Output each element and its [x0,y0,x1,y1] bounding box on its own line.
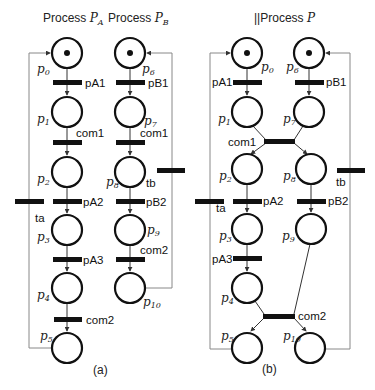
label-p1-b: p1 [218,112,231,127]
transition-com1-a [53,140,82,145]
label-p10-a: p10 [143,295,161,310]
label-p5-a: p5 [40,329,53,344]
label-com2-a: com2 [86,314,114,326]
title-process-pb: Process PB [108,11,169,27]
transition-pB1-a [116,80,145,85]
place-p9-a [115,215,145,245]
label-com1-b: com1 [228,136,256,148]
label-p6-a: p6 [142,62,155,77]
token-p0-a [64,50,70,56]
label-p5-b: p5 [221,329,234,344]
caption-a: (a) [93,363,108,377]
label-p2-a: p2 [37,172,50,187]
label-pB1-a: pB1 [148,77,168,89]
label-p0-a: p0 [37,62,50,77]
label-ta-b: ta [216,202,226,214]
place-p7-b [294,97,324,127]
label-pB2-b: pB2 [328,195,348,207]
caption-b: (b) [262,362,277,376]
place-p8-a [115,157,145,187]
place-p4-b [232,273,262,303]
label-p7-a: p7 [144,114,158,129]
place-p8-b [296,154,326,184]
label-p9-b: p9 [282,229,295,244]
transition-pA3-a [53,257,82,262]
label-p3-b: p3 [219,229,232,244]
label-pA3-b: pA3 [212,253,232,265]
place-p5-a [52,333,82,363]
label-pB2-a: pB2 [146,196,166,208]
transition-com2-b [263,314,295,319]
label-p1-a: p1 [37,112,50,127]
transition-pB2-a [116,199,145,204]
label-p0-b: p0 [261,60,274,75]
label-pA2-a: pA2 [83,196,103,208]
label-com1-a: com1 [76,127,104,139]
transition-com1-b [264,139,295,144]
place-p4-a [52,273,82,303]
transition-pB2-b [297,199,326,204]
place-p5-b [232,333,262,363]
place-p3-a [52,215,82,245]
label-tb-b: tb [336,176,346,188]
place-p2-a [52,157,82,187]
transition-pA1-b [233,80,262,85]
label-p3-a: p3 [37,230,50,245]
label-p2-b: p2 [219,169,232,184]
transition-ta-a [15,199,44,204]
label-pA3-a: pA3 [83,254,103,266]
transition-com2-a [54,317,82,322]
label-pA1-b: pA1 [212,76,232,88]
place-p9-b [296,214,326,244]
place-p1-a [52,97,82,127]
title-process-pa: Process PA [43,11,104,27]
petri-net-figure: Process PA Process PB [0,0,375,390]
label-p10-b: p10 [283,329,301,344]
place-p1-b [232,97,262,127]
token-p6-a [127,50,133,56]
transition-com1b-a [116,140,145,145]
place-p2-b [232,154,262,184]
transition-tb-b [337,168,365,173]
label-tb-a: tb [146,177,156,189]
token-p0-b [244,50,250,56]
title-parallel-process-p: ||Process P [254,11,316,25]
label-pB1-b: pB1 [326,76,346,88]
label-com2b-a: com2 [140,244,168,256]
transition-com2b-a [116,257,145,262]
transition-pA2-b [233,199,262,204]
label-p9-a: p9 [147,223,160,238]
label-p4-a: p4 [37,288,50,303]
place-p10-a [115,273,145,303]
transition-pB1-b [295,80,324,85]
label-pA1-a: pA1 [85,77,105,89]
place-p7-a [115,97,145,127]
label-pA2-b: pA2 [263,195,283,207]
transition-pA2-a [53,199,82,204]
place-p3-b [232,214,262,244]
label-com2-b: com2 [298,310,326,322]
panel-a: Process PA Process PB [15,11,185,377]
label-p8-b: p8 [283,169,296,184]
transition-pA3-b [233,256,262,261]
label-ta-a: ta [35,212,45,224]
transition-tb-a [157,168,185,173]
panel-b: ||Process P [195,11,365,376]
token-p6-b [306,50,312,56]
transition-pA1-a [53,80,82,85]
